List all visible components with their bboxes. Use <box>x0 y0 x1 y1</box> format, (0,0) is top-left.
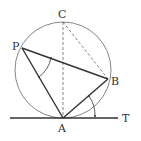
angle-arc-a-end2 <box>94 115 96 117</box>
angle-arc-p <box>39 58 51 77</box>
angle-arc-p-end2 <box>50 57 52 59</box>
label-t: T <box>122 112 130 125</box>
segment-pb <box>22 48 108 79</box>
label-p: P <box>12 40 20 53</box>
label-b: B <box>111 75 119 88</box>
label-c: C <box>58 8 66 21</box>
angle-arc-p-end1 <box>38 76 40 78</box>
label-a: A <box>57 122 67 135</box>
angle-arc-a-end1 <box>88 95 90 97</box>
tangent-chord-diagram: C P B A T <box>0 0 141 141</box>
angle-arc-a <box>89 96 95 117</box>
segment-pa <box>22 48 63 118</box>
